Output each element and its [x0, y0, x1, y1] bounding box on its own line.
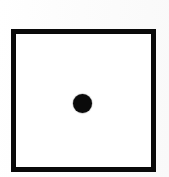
figure-canvas [0, 0, 169, 177]
center-dot-shape [73, 94, 92, 113]
